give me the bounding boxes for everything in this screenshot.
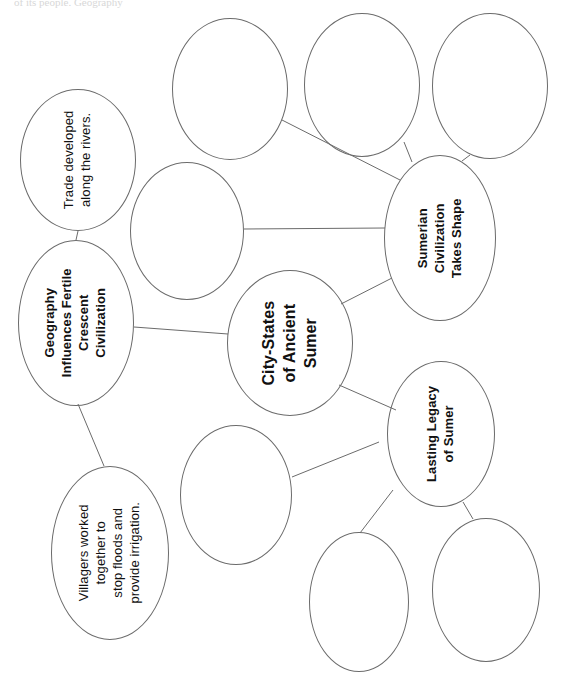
node-label: Villagers worked together to stop floods… [76,495,144,611]
node-blank-bottom-center[interactable] [309,532,409,672]
node-geography-fertile-crescent[interactable]: Geography Influences Fertile Crescent Ci… [18,240,134,406]
node-blank-bottom-left[interactable] [180,425,292,565]
node-label: Trade developed along the rivers. [61,103,95,217]
node-label: Geography Influences Fertile Crescent Ci… [42,266,110,380]
node-label: Lasting Legacy of Sumer [424,381,458,487]
node-trade-rivers[interactable]: Trade developed along the rivers. [20,89,136,231]
node-blank-top-right[interactable] [432,13,548,159]
node-blank-mid-left[interactable] [130,162,244,300]
node-villagers-irrigation[interactable]: Villagers worked together to stop floods… [51,466,169,640]
node-blank-top-left[interactable] [172,18,288,160]
node-blank-top-center[interactable] [304,13,420,157]
node-blank-bottom-right[interactable] [432,518,540,662]
node-sumerian-civilization-takes-shape[interactable]: Sumerian Civilization Takes Shape [384,155,496,321]
concept-map-canvas: of its people. Geography Trade developed… [0,0,561,682]
node-label: Sumerian Civilization Takes Shape [415,183,466,293]
node-label: City-States of Ancient Sumer [259,281,321,405]
node-city-states-of-ancient-sumer[interactable]: City-States of Ancient Sumer [227,270,353,416]
node-lasting-legacy-of-sumer[interactable]: Lasting Legacy of Sumer [387,361,495,507]
node-layer: Trade developed along the rivers.Geograp… [0,0,561,682]
